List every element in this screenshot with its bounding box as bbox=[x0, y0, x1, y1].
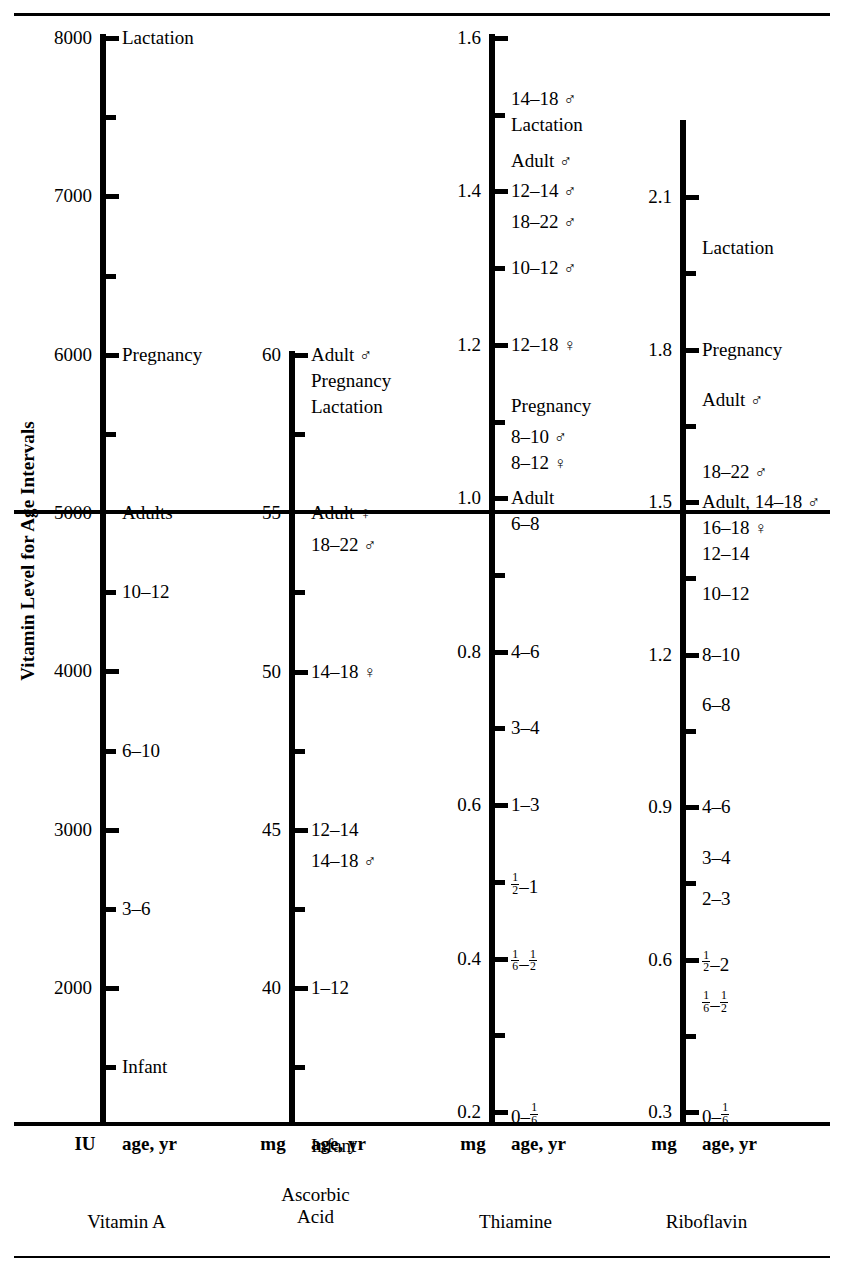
age-header-ascorbic-acid: age, yr bbox=[311, 1133, 366, 1155]
tick-major bbox=[295, 986, 308, 991]
scale-number: 45 bbox=[262, 820, 281, 839]
tick-minor bbox=[106, 115, 116, 120]
category-label: 12–14 ♂ bbox=[511, 181, 576, 200]
tick-major bbox=[106, 36, 119, 41]
tick-major bbox=[106, 669, 119, 674]
tick-major bbox=[495, 36, 508, 41]
scale-number: 40 bbox=[262, 978, 281, 997]
tick-minor bbox=[686, 271, 696, 276]
tick-major bbox=[106, 828, 119, 833]
tick-major bbox=[295, 670, 308, 675]
tick-major bbox=[295, 828, 308, 833]
category-label: Adult ♂ bbox=[311, 345, 372, 364]
category-label: 6–10 bbox=[122, 741, 160, 760]
tick-major bbox=[495, 803, 508, 808]
bottom-rule bbox=[14, 1256, 830, 1258]
tick-minor bbox=[495, 113, 505, 118]
tick-major bbox=[686, 805, 699, 810]
y-axis-caption: Vitamin Level for Age Intervals bbox=[17, 291, 39, 811]
scale-number: 1.5 bbox=[648, 492, 672, 511]
vitamin-level-chart: Vitamin Level for Age Intervals 80007000… bbox=[0, 0, 844, 1276]
tick-major bbox=[495, 957, 508, 962]
category-label: 10–12 bbox=[122, 582, 170, 601]
category-label: Pregnancy bbox=[702, 340, 782, 359]
tick-minor bbox=[295, 749, 305, 754]
tick-major bbox=[495, 496, 508, 501]
tick-minor bbox=[106, 274, 116, 279]
tick-minor bbox=[495, 880, 505, 885]
tick-major bbox=[106, 986, 119, 991]
category-label: 18–22 ♂ bbox=[511, 212, 576, 231]
tick-minor bbox=[106, 907, 116, 912]
tick-major bbox=[295, 353, 308, 358]
scale-number: 0.9 bbox=[648, 797, 672, 816]
category-label: Adult ♀ bbox=[311, 503, 372, 522]
column-name-vitamin-a: Vitamin A bbox=[17, 1211, 237, 1233]
scale-number: 2000 bbox=[54, 978, 92, 997]
category-label: 12–14 bbox=[311, 820, 359, 839]
category-label: 1–12 bbox=[311, 978, 349, 997]
category-label: 0–16 bbox=[511, 1102, 538, 1127]
category-label: Lactation bbox=[311, 397, 383, 416]
tick-major bbox=[106, 353, 119, 358]
tick-major bbox=[686, 1110, 699, 1115]
column-name-riboflavin: Riboflavin bbox=[597, 1211, 817, 1233]
age-header-thiamine: age, yr bbox=[511, 1133, 566, 1155]
scale-number: 55 bbox=[262, 503, 281, 522]
category-label: Lactation bbox=[511, 115, 583, 134]
tick-minor bbox=[686, 729, 696, 734]
tick-minor bbox=[495, 420, 505, 425]
scale-number: 1.2 bbox=[457, 335, 481, 354]
category-label: 12–18 ♀ bbox=[511, 335, 576, 354]
tick-minor bbox=[295, 590, 305, 595]
scale-number: 5000 bbox=[54, 503, 92, 522]
category-label: 12–1 bbox=[511, 872, 538, 897]
category-label: 3–6 bbox=[122, 899, 151, 918]
category-label: 12–2 bbox=[702, 950, 729, 975]
category-label: Adult ♂ bbox=[511, 151, 572, 170]
category-label: Adult, 14–18 ♂ bbox=[702, 492, 820, 511]
tick-major bbox=[686, 958, 699, 963]
scale-number: 7000 bbox=[54, 186, 92, 205]
category-label: 12–14 bbox=[702, 544, 750, 563]
category-label: 16–12 bbox=[702, 990, 728, 1015]
category-label: Pregnancy bbox=[511, 396, 591, 415]
tick-major bbox=[495, 650, 508, 655]
age-header-vitamin-a: age, yr bbox=[122, 1133, 177, 1155]
scale-number: 8000 bbox=[54, 28, 92, 47]
unit-label-ascorbic-acid: mg bbox=[250, 1133, 296, 1155]
category-label: Adults bbox=[122, 503, 173, 522]
category-label: 0–16 bbox=[702, 1102, 729, 1127]
tick-major bbox=[495, 1110, 508, 1115]
category-label: 4–6 bbox=[511, 642, 540, 661]
tick-minor bbox=[495, 1033, 505, 1038]
scale-number: 1.8 bbox=[648, 340, 672, 359]
tick-major bbox=[106, 194, 119, 199]
category-label: Lactation bbox=[122, 28, 194, 47]
tick-minor bbox=[106, 432, 116, 437]
category-label: Pregnancy bbox=[122, 345, 202, 364]
axis-ascorbic-acid bbox=[289, 351, 295, 1122]
category-label: 10–12 bbox=[702, 584, 750, 603]
category-label: 3–4 bbox=[511, 718, 540, 737]
tick-minor bbox=[686, 881, 696, 886]
column-name-ascorbic-acid: AscorbicAcid bbox=[206, 1184, 426, 1228]
category-label: 14–18 ♀ bbox=[311, 662, 376, 681]
tick-minor bbox=[106, 590, 116, 595]
category-label: 18–22 ♂ bbox=[702, 462, 767, 481]
tick-major bbox=[686, 348, 699, 353]
tick-minor bbox=[495, 726, 505, 731]
scale-number: 1.2 bbox=[648, 645, 672, 664]
scale-number: 60 bbox=[262, 345, 281, 364]
tick-minor bbox=[295, 432, 305, 437]
category-label: 6–8 bbox=[702, 695, 731, 714]
category-label: 3–4 bbox=[702, 848, 731, 867]
scale-number: 0.4 bbox=[457, 949, 481, 968]
tick-minor bbox=[686, 1034, 696, 1039]
tick-major bbox=[686, 653, 699, 658]
scale-number: 0.6 bbox=[648, 950, 672, 969]
category-label: 8–12 ♀ bbox=[511, 453, 567, 472]
scale-number: 4000 bbox=[54, 661, 92, 680]
scale-number: 50 bbox=[262, 662, 281, 681]
category-label: 4–6 bbox=[702, 797, 731, 816]
